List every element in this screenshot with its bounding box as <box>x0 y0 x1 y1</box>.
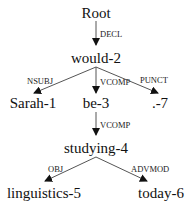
node-be-3: be-3 <box>83 95 110 111</box>
edge-nsubj: NSUBJ <box>27 67 96 93</box>
dependency-tree-diagram: DECL NSUBJ VCOMP PUNCT VCOMP OBJ ADVMOD … <box>0 0 190 209</box>
node-root: Root <box>81 5 111 21</box>
node-punct-7: .-7 <box>152 95 169 111</box>
edge-label-punct: PUNCT <box>140 75 169 85</box>
edge-decl: DECL <box>96 21 122 45</box>
edge-advmod: ADVMOD <box>96 157 169 181</box>
edge-vcomp-be: VCOMP <box>96 67 131 93</box>
edge-label-vcomp-be: VCOMP <box>100 77 131 87</box>
edge-label-nsubj: NSUBJ <box>27 76 54 86</box>
node-would-2: would-2 <box>71 50 121 66</box>
node-sarah-1: Sarah-1 <box>10 95 57 111</box>
edge-label-obj: OBJ <box>48 164 64 174</box>
edge-vcomp-studying: VCOMP <box>96 112 131 135</box>
node-linguistics-5: linguistics-5 <box>7 185 81 201</box>
edge-label-advmod: ADVMOD <box>131 164 169 174</box>
node-studying-4: studying-4 <box>64 140 129 156</box>
edge-label-decl: DECL <box>100 29 122 39</box>
edge-obj: OBJ <box>45 157 96 181</box>
node-today-6: today-6 <box>138 185 184 201</box>
edge-label-vcomp-studying: VCOMP <box>100 120 131 130</box>
